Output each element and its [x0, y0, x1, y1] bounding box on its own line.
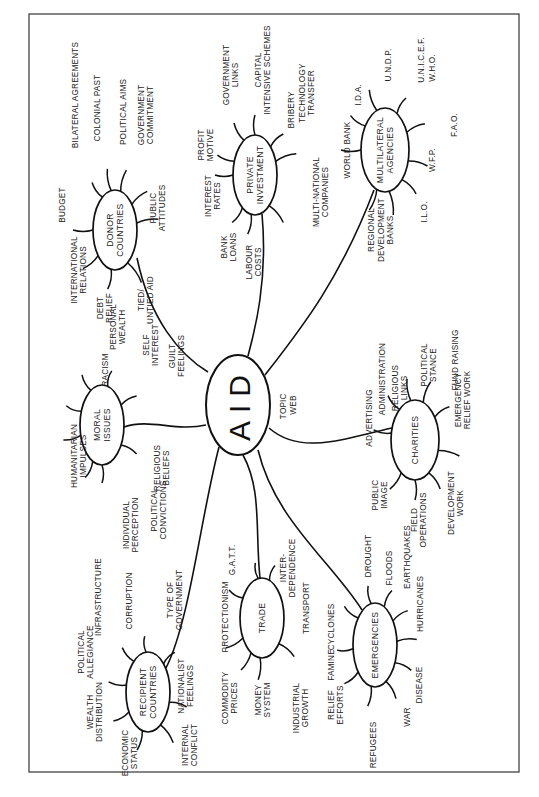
- branch-label: BANKLOANS: [220, 232, 239, 261]
- branch-label-line: WEALTH: [118, 310, 127, 345]
- branch-label: CYCLONES: [327, 603, 336, 650]
- branch-label-line: RELIGIOUS: [391, 364, 400, 411]
- branch-label-line: CAPITAL: [254, 52, 263, 87]
- branch-line: [241, 653, 251, 670]
- topic-title: TRADE: [257, 603, 267, 634]
- branch-label-line: WEALTH: [86, 695, 95, 730]
- branch-label-line: MOTIVE: [206, 128, 215, 161]
- branch-line: [132, 191, 147, 204]
- branch-line: [395, 663, 411, 671]
- branch-line: [109, 682, 127, 685]
- branch-label-line: SYSTEM: [263, 683, 272, 718]
- hub-note-line: WEB: [289, 395, 298, 415]
- branch-label: HURRICANES: [416, 576, 425, 632]
- branch-line: [107, 169, 111, 191]
- branch-line: [415, 480, 417, 500]
- branch-label-line: INTERNAL: [181, 724, 190, 766]
- branch-label-line: WORLD BANK: [343, 121, 352, 178]
- branch-label: U.N.I.C.E.F.: [417, 37, 426, 83]
- topic-title-line: PRIVATE: [245, 156, 255, 194]
- topic-node-emergencies: EMERGENCIESCYCLONESDROUGHTFLOODSEARTHQUA…: [327, 525, 426, 769]
- branch-label: RACISM: [101, 353, 110, 386]
- branch-line: [408, 161, 427, 166]
- branch-label: POLITICALSTANCE: [420, 343, 439, 387]
- branch-line: [344, 606, 358, 618]
- branch-label: W.H.O.: [428, 54, 437, 82]
- branch-label-line: RELIEF WORK: [463, 370, 472, 429]
- branch-label: DROUGHT: [364, 535, 373, 578]
- topic-title-line: RECIPIENT: [138, 667, 148, 716]
- branch-label-line: EMERGENCY: [454, 372, 463, 427]
- topic-title: MULTILATERALAGENCIES: [375, 117, 395, 183]
- topic-title-line: INVESTMENT: [255, 145, 265, 204]
- branch-line: [407, 124, 425, 133]
- branch-line: [279, 644, 294, 657]
- branch-label-line: REGIONAL: [367, 208, 376, 252]
- branch-label-line: PERCEPTION: [131, 497, 140, 552]
- branch-label: I.D.A.: [354, 84, 363, 106]
- branch-label-line: BILATERAL AGREEMENTS: [71, 41, 80, 148]
- branch-label: BUDGET: [58, 187, 67, 222]
- topic-node-donor: DONORCOUNTRIESBUDGETBILATERAL AGREEMENTS…: [58, 41, 167, 323]
- branch-label-line: BRIBERY: [287, 91, 296, 129]
- branch-line: [108, 269, 112, 289]
- branch-line: [368, 586, 371, 604]
- branch-label-line: FLOODS: [385, 550, 394, 585]
- branch-label: I.L.O.: [420, 201, 429, 222]
- branch-label-line: PROFIT: [197, 129, 206, 160]
- branch-line: [122, 648, 134, 662]
- topic-node-recipient: RECIPIENTCOUNTRIESPOLITICALALLEGIANCEINF…: [77, 558, 200, 777]
- branch-label-line: U.N.D.P.: [384, 49, 393, 82]
- branch-label-line: POLITICAL: [150, 488, 159, 532]
- branch-label-line: DEVELOPMENT: [447, 471, 456, 535]
- diagram-svg: DONORCOUNTRIESBUDGETBILATERAL AGREEMENTS…: [0, 0, 539, 797]
- branch-line: [369, 90, 377, 111]
- branch-label: TYPE OFGOVERNMENT: [166, 570, 185, 631]
- branch-label-line: GOVERNMENT: [175, 570, 184, 631]
- branch-label: DISEASE: [415, 666, 424, 703]
- branch-line: [386, 681, 396, 698]
- branch-label-line: PROTECTIONISM: [221, 582, 230, 653]
- branch-label-line: PUBLIC: [149, 193, 158, 224]
- branch-line: [397, 98, 406, 114]
- branch-label-line: TRANSFER: [307, 70, 316, 116]
- branch-label-line: ADMINISTRATION: [378, 343, 387, 415]
- branch-label-line: W.F.P.: [428, 148, 437, 172]
- branch-line: [368, 686, 372, 706]
- branch-line: [351, 116, 366, 126]
- topic-node-trade: TRADEPROTECTIONISMG.A.T.T.INTER-DEPENDEN…: [221, 538, 312, 733]
- branch-label: POLITICALCONVICTIONS: [150, 480, 169, 539]
- branch-label-line: COMPANIES: [321, 167, 330, 218]
- branch-label-line: INTEREST: [151, 324, 160, 366]
- branch-line: [435, 407, 450, 417]
- branch-label: F.A.O.: [450, 113, 459, 137]
- branch-line: [113, 712, 128, 721]
- branch-line: [229, 590, 243, 598]
- branch-line: [161, 725, 174, 743]
- link-moral: [124, 424, 206, 427]
- branch-label: CAPITALINTENSIVE SCHEMES: [254, 25, 273, 115]
- branch-label: POLITICAL AIMS: [119, 79, 128, 146]
- branch-label-line: GUILT: [168, 344, 177, 369]
- branch-label-line: W.H.O.: [428, 54, 437, 82]
- branch-label: TIED/UNTIED AID: [137, 276, 156, 324]
- branch-line: [337, 649, 353, 651]
- branch-label-line: CYCLONES: [327, 603, 336, 650]
- branch-label-line: INDIVIDUAL: [122, 501, 131, 549]
- link-trade: [243, 455, 260, 578]
- branch-label-line: STATUS: [130, 737, 139, 770]
- topic-title: MORALISSUES: [92, 408, 112, 441]
- branch-label-line: DEVELOPMENT: [377, 198, 386, 262]
- topic-node-moral: MORALISSUESRACISMPERSONALWEALTHSELFINTER…: [63, 304, 186, 553]
- branch-label-line: WAR: [403, 707, 412, 726]
- branch-label: PUBLICATTITUDES: [149, 184, 168, 231]
- branch-label: WORLD BANK: [343, 121, 352, 178]
- branch-label-line: TYPE OF: [166, 582, 175, 618]
- branch-label: ECONOMICSTATUS: [121, 730, 140, 777]
- branch-label-line: DEBT: [96, 297, 105, 320]
- branch-label: U.N.D.P.: [384, 49, 393, 82]
- branch-label-line: LOANS: [229, 232, 238, 261]
- branch-label-line: INDUSTRIAL: [292, 682, 301, 733]
- branch-label-line: U.N.I.C.E.F.: [417, 37, 426, 83]
- branch-label: INTERNALCONFLICT: [181, 724, 200, 767]
